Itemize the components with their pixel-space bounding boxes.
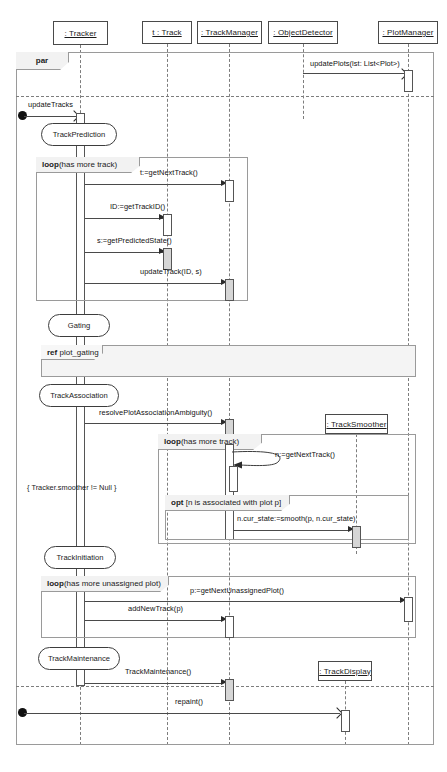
message-line-getnexttrack	[85, 184, 223, 185]
fragment-par-operator: par	[36, 56, 48, 65]
message-label-resolveambiguity: resolvePlotAssociationAmbiguity()	[99, 408, 212, 417]
message-label-trackmaintenance: TrackMaintenance()	[125, 667, 191, 676]
activation-trackmanager-addnewtrack	[225, 616, 234, 638]
fragment-opt-assoc-operator: opt	[171, 498, 183, 507]
message-label-updatetrack: updateTrack(ID, s)	[140, 267, 202, 276]
lifeline-label-plotmanager: : PlotManager	[382, 28, 433, 37]
fragment-loop-smoother-operator: loop	[164, 437, 181, 446]
state-trackinitiation[interactable]: TrackInitiation	[44, 546, 116, 569]
fragment-par-tab: par	[16, 52, 69, 70]
message-label-getpredictedstate: s:=getPredictedState()	[97, 236, 172, 245]
state-label-trackprediction: TrackPrediction	[53, 130, 105, 139]
message-label-gettrackid: ID:=getTrackID()	[110, 202, 165, 211]
lifeline-header-track[interactable]: t : Track	[142, 21, 192, 44]
sequence-diagram-canvas: : Tracker t : Track : TrackManager : Obj…	[0, 0, 447, 772]
lifeline-header-tracker[interactable]: : Tracker	[53, 21, 108, 45]
message-label-getnexttrack-self: n:=getNextTrack()	[275, 450, 335, 459]
message-line-resolveambiguity	[85, 423, 223, 424]
message-label-getnextunassignedplot: p:=getNextUnassignedPlot()	[190, 586, 284, 595]
lifeline-label-tracker: : Tracker	[64, 29, 96, 38]
message-line-updatetrack	[85, 283, 223, 284]
state-label-trackmaintenance: TrackMaintenance	[48, 654, 110, 663]
lifeline-label-track: t : Track	[152, 28, 181, 37]
lifeline-label-objectdetector: : ObjectDetector	[273, 28, 332, 37]
lifeline-header-objectdetector[interactable]: : ObjectDetector	[268, 21, 338, 44]
activation-tracksmoother-smooth	[352, 526, 361, 548]
constraint-note-smoother: { Tracker.smoother != Null }	[27, 483, 116, 492]
fragment-opt-assoc-tab: opt [n is associated with plot p]	[165, 495, 290, 511]
activation-trackmanager-self-nested	[229, 466, 238, 492]
fragment-loop-track	[36, 157, 248, 301]
fragment-ref-operator: ref	[47, 348, 57, 357]
fragment-loop-track-tab: loop(has more track)	[36, 157, 140, 173]
state-trackmaintenance[interactable]: TrackMaintenance	[38, 647, 120, 670]
lifeline-header-plotmanager[interactable]: : PlotManager	[378, 21, 438, 44]
message-label-getnexttrack: t:=getNextTrack()	[140, 168, 198, 177]
activation-trackdisplay-repaint	[341, 710, 350, 732]
message-line-getnextunassignedplot	[85, 601, 402, 602]
message-line-smooth	[234, 530, 350, 531]
message-line-updateplots	[303, 73, 406, 74]
fragment-opt-assoc-guard: [n is associated with plot p]	[186, 498, 282, 507]
message-label-addnewtrack: addNewTrack(p)	[128, 604, 183, 613]
state-label-trackinitiation: TrackInitiation	[57, 553, 104, 562]
activation-plotmanager-updateplots	[404, 70, 413, 92]
fragment-ref-plot-gating-tab: ref plot_gating	[41, 345, 103, 360]
fragment-loop-track-guard: (has more track)	[59, 160, 117, 169]
message-line-repaint	[24, 713, 340, 714]
state-trackprediction[interactable]: TrackPrediction	[41, 123, 117, 146]
lifeline-header-trackmanager[interactable]: : TrackManager	[197, 21, 262, 44]
message-label-updateplots: updatePlots(lst: List<Plot>)	[310, 59, 400, 68]
fragment-loop-unassigned-operator: loop	[47, 579, 64, 588]
fragment-par-divider-1	[16, 96, 434, 97]
state-trackassociation[interactable]: TrackAssociation	[39, 384, 119, 407]
state-gating[interactable]: Gating	[48, 314, 110, 337]
message-line-addnewtrack	[85, 620, 223, 621]
lifeline-label-trackmanager: : TrackManager	[201, 28, 258, 37]
message-label-smooth: n.cur_state:=smooth(p, n.cur_state)	[237, 514, 356, 523]
activation-trackmanager-updatetrack	[225, 279, 234, 301]
fragment-loop-unassigned-tab: loop(has more unassigned plot)	[41, 576, 169, 592]
activation-trackmanager-trackmaintenance	[225, 679, 234, 701]
state-label-trackassociation: TrackAssociation	[50, 391, 108, 400]
message-line-trackmaintenance	[85, 683, 223, 684]
fragment-ref-guard: plot_gating	[59, 348, 98, 357]
message-line-getpredictedstate	[85, 252, 163, 253]
activation-trackmanager-getnexttrack	[225, 180, 234, 202]
state-label-gating: Gating	[68, 321, 90, 330]
fragment-loop-track-operator: loop	[42, 160, 59, 169]
message-line-gettrackid	[85, 218, 163, 219]
fragment-loop-unassigned-guard: (has more unassigned plot)	[64, 579, 161, 588]
message-label-repaint: repaint()	[175, 697, 203, 706]
activation-plotmanager-getnextunassignedplot	[404, 597, 413, 622]
message-label-updatetracks: updateTracks	[28, 100, 73, 109]
activation-track-gettrackid	[163, 214, 172, 236]
